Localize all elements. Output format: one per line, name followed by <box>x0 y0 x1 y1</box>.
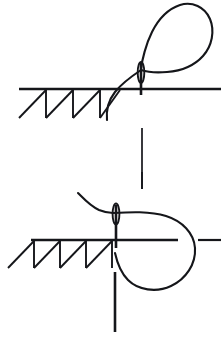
material-hatching-upper <box>19 90 120 118</box>
thread-tail-lower <box>78 193 113 213</box>
thread-open-loop <box>107 4 213 120</box>
thread-closed-loop-lower <box>113 212 195 290</box>
figure-root: Needle and thread loop formation <box>0 0 221 345</box>
lower-panel <box>8 172 221 332</box>
technical-drawing-canvas <box>0 0 221 345</box>
material-hatching-lower <box>8 241 112 268</box>
upper-panel <box>19 4 221 189</box>
